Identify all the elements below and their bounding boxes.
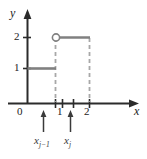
marker-label-x-j: xj	[64, 135, 71, 149]
y-axis	[24, 9, 32, 104]
x-tick-label-1: 1	[57, 106, 63, 117]
y-tick-label-1: 1	[14, 62, 20, 73]
x-tick-label-2: 2	[84, 106, 90, 117]
dashed-guide-lines	[56, 38, 90, 102]
open-circle-marker	[52, 34, 59, 41]
y-tick-label-2: 2	[14, 31, 20, 42]
marker-label-sub-left: j−1	[39, 140, 50, 149]
step-function-figure: y x 0 2 1 1 2 xj−1 xj	[0, 0, 147, 159]
x-axis-label: x	[134, 105, 139, 117]
y-axis-label: y	[10, 7, 15, 19]
marker-label-sub-right: j	[69, 140, 71, 149]
step-function-plot	[0, 0, 147, 159]
origin-label: 0	[17, 106, 23, 117]
marker-label-x-j-minus-1: xj−1	[34, 135, 50, 149]
